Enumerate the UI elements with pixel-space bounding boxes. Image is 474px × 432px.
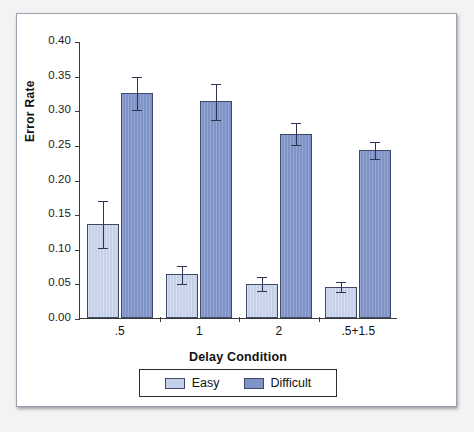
error-bar-difficult-3 bbox=[375, 142, 376, 159]
error-cap-lower-difficult-0 bbox=[132, 110, 142, 111]
error-cap-upper-easy-3 bbox=[336, 282, 346, 283]
x-tick-label-3: .5+1.5 bbox=[318, 324, 398, 338]
error-cap-upper-difficult-3 bbox=[370, 142, 380, 143]
error-bar-difficult-2 bbox=[296, 123, 297, 145]
x-tick-label-2: 2 bbox=[239, 324, 319, 338]
error-cap-lower-easy-0 bbox=[98, 248, 108, 249]
y-tick-label: 0.10 bbox=[48, 242, 71, 254]
x-axis-group-separator bbox=[319, 317, 320, 322]
legend-item-difficult: Difficult bbox=[244, 376, 312, 390]
bar-difficult-1 bbox=[200, 101, 232, 318]
x-axis-group-separator bbox=[239, 317, 240, 322]
easy-swatch-icon bbox=[165, 378, 185, 389]
error-cap-lower-difficult-3 bbox=[370, 159, 380, 160]
legend-item-easy: Easy bbox=[165, 376, 220, 390]
chart-legend: Easy Difficult bbox=[139, 369, 337, 397]
x-tick-label-0: .5 bbox=[80, 324, 160, 338]
y-tick-label: 0.35 bbox=[48, 69, 71, 81]
error-cap-lower-easy-2 bbox=[257, 291, 267, 292]
legend-label-easy: Easy bbox=[192, 376, 220, 390]
chart-card: Error Rate 0.000.050.100.150.200.250.300… bbox=[17, 14, 456, 406]
difficult-swatch-icon bbox=[244, 378, 264, 389]
y-tick-mark bbox=[75, 146, 80, 147]
bar-difficult-3 bbox=[359, 150, 391, 318]
error-cap-lower-easy-1 bbox=[177, 284, 187, 285]
error-cap-upper-easy-2 bbox=[257, 277, 267, 278]
y-tick-mark bbox=[75, 42, 80, 43]
y-tick-mark bbox=[75, 215, 80, 216]
scanned-page-frame: Error Rate 0.000.050.100.150.200.250.300… bbox=[16, 13, 457, 407]
y-tick-label: 0.00 bbox=[48, 311, 71, 323]
y-tick-label: 0.25 bbox=[48, 138, 71, 150]
error-bar-difficult-1 bbox=[216, 84, 217, 119]
y-tick-mark bbox=[75, 319, 80, 320]
y-tick-mark bbox=[75, 284, 80, 285]
y-tick-label: 0.20 bbox=[48, 173, 71, 185]
error-cap-upper-difficult-1 bbox=[211, 84, 221, 85]
y-tick-mark bbox=[75, 111, 80, 112]
error-cap-upper-difficult-2 bbox=[291, 123, 301, 124]
x-axis-group-separator bbox=[160, 317, 161, 322]
error-cap-lower-difficult-2 bbox=[291, 145, 301, 146]
bar-difficult-0 bbox=[121, 93, 153, 318]
y-tick-label: 0.30 bbox=[48, 103, 71, 115]
x-axis-title: Delay Condition bbox=[79, 350, 397, 364]
figure-background: Error Rate 0.000.050.100.150.200.250.300… bbox=[0, 0, 474, 432]
x-tick-label-1: 1 bbox=[159, 324, 239, 338]
bar-difficult-2 bbox=[280, 134, 312, 318]
error-bar-easy-2 bbox=[262, 277, 263, 291]
y-tick-label: 0.05 bbox=[48, 276, 71, 288]
error-bar-easy-3 bbox=[341, 282, 342, 292]
y-tick-label: 0.15 bbox=[48, 207, 71, 219]
error-cap-upper-difficult-0 bbox=[132, 77, 142, 78]
error-bar-easy-1 bbox=[182, 266, 183, 284]
error-cap-upper-easy-0 bbox=[98, 201, 108, 202]
y-tick-mark bbox=[75, 250, 80, 251]
error-cap-lower-easy-3 bbox=[336, 292, 346, 293]
y-tick-mark bbox=[75, 181, 80, 182]
y-tick-label: 0.40 bbox=[48, 34, 71, 46]
y-axis-title: Error Rate bbox=[23, 80, 37, 142]
plot-area: 0.000.050.100.150.200.250.300.350.40 .51… bbox=[79, 42, 397, 319]
error-cap-upper-easy-1 bbox=[177, 266, 187, 267]
error-bar-easy-0 bbox=[103, 201, 104, 248]
legend-label-difficult: Difficult bbox=[271, 376, 312, 390]
error-bar-difficult-0 bbox=[137, 77, 138, 110]
error-cap-lower-difficult-1 bbox=[211, 120, 221, 121]
y-tick-mark bbox=[75, 77, 80, 78]
